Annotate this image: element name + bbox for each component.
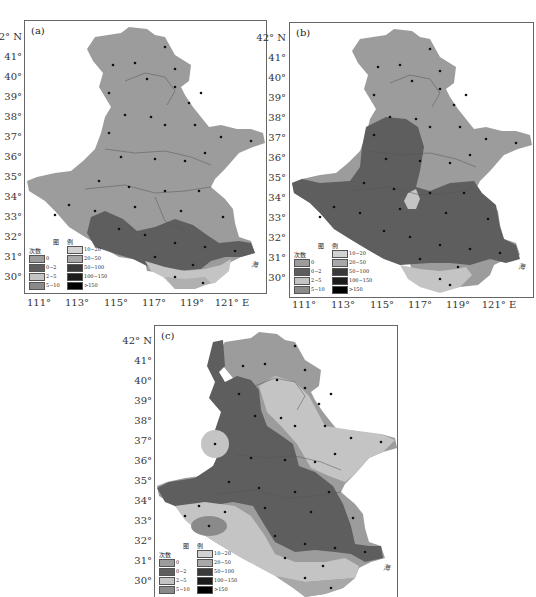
panel-label-b: (b) xyxy=(296,27,310,38)
legend-swatch xyxy=(29,282,45,290)
legend-swatch xyxy=(197,577,213,585)
legend-swatch xyxy=(67,255,83,263)
map-frame-c: (c) 海 图 例 次数 0 0~2 2~5 5~10 10~20 20~50 … xyxy=(154,325,398,597)
legend-swatch xyxy=(67,273,83,281)
legend-swatch xyxy=(332,277,348,285)
legend-c: 图 例 次数 0 0~2 2~5 5~10 10~20 20~50 50~100… xyxy=(159,541,235,597)
legend-swatch xyxy=(294,286,310,294)
legend-swatch xyxy=(159,559,175,567)
legend-swatch xyxy=(332,268,348,276)
legend-header: 次数 xyxy=(294,250,306,259)
sea-label-b: 海 xyxy=(518,261,525,271)
panel-label-a: (a) xyxy=(31,25,45,36)
panel-label-c: (c) xyxy=(161,330,174,341)
legend-swatch xyxy=(294,268,310,276)
legend-swatch xyxy=(67,246,83,254)
legend-swatch xyxy=(29,273,45,281)
legend-header: 次数 xyxy=(159,550,171,559)
legend-title: 图 例 xyxy=(53,237,76,246)
legend-a: 图 例 次数 0 0~2 2~5 5~10 10~20 20~50 50~100… xyxy=(29,237,105,291)
panel-b: (b) 海 图 例 次数 0 0~2 2~5 5~10 10~20 20~50 … xyxy=(266,0,536,320)
legend-swatch xyxy=(67,282,83,290)
legend-swatch xyxy=(294,259,310,267)
legend-swatch xyxy=(29,264,45,272)
map-frame-a: (a) 海 图 例 次数 0 0~2 2~5 5~10 10~20 20~50 … xyxy=(24,20,267,294)
legend-swatch xyxy=(159,577,175,585)
legend-swatch xyxy=(197,550,213,558)
legend-swatch xyxy=(332,250,348,258)
legend-swatch xyxy=(332,259,348,267)
legend-title: 图 例 xyxy=(318,241,341,250)
map-frame-b: (b) 海 图 例 次数 0 0~2 2~5 5~10 10~20 20~50 … xyxy=(289,22,534,298)
legend-swatch xyxy=(29,255,45,263)
legend-swatch xyxy=(197,559,213,567)
sea-label-c: 海 xyxy=(383,562,390,572)
legend-title: 图 例 xyxy=(183,541,206,550)
panel-a: (a) 海 图 例 次数 0 0~2 2~5 5~10 10~20 20~50 … xyxy=(0,0,268,312)
panel-c: (c) 海 图 例 次数 0 0~2 2~5 5~10 10~20 20~50 … xyxy=(130,320,400,596)
legend-swatch xyxy=(159,586,175,594)
legend-swatch xyxy=(332,286,348,294)
legend-b: 图 例 次数 0 0~2 2~5 5~10 10~20 20~50 50~100… xyxy=(294,241,370,295)
legend-swatch xyxy=(197,568,213,576)
legend-header: 次数 xyxy=(29,246,41,255)
legend-swatch xyxy=(159,568,175,576)
legend-swatch xyxy=(67,264,83,272)
legend-swatch xyxy=(197,586,213,594)
legend-swatch xyxy=(294,277,310,285)
